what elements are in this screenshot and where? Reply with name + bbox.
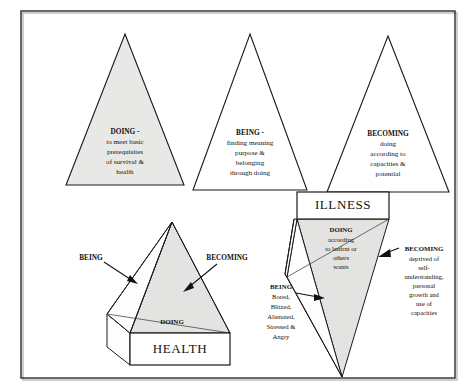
triangle-doing-line-4: health (116, 168, 134, 176)
illness-doing-line-1: according (328, 236, 355, 243)
illness-being-line-5: Angry (273, 333, 291, 340)
triangle-being-line-1: finding meaning (227, 139, 274, 147)
triangle-becoming-shape (327, 36, 449, 192)
triangle-doing: DOING - to meet basic prerequisites of s… (66, 34, 184, 185)
illness-pyramid: ILLNESS DOING according to lanfrnt or ot… (267, 192, 444, 377)
triangle-being-line-4: through doing (230, 169, 270, 177)
triangle-doing-line-2: prerequisites (107, 148, 143, 156)
illness-becoming-line-6: use of (416, 300, 433, 307)
triangle-being-heading: BEING - (236, 128, 264, 137)
illness-becoming-line-3: understanding, (404, 273, 443, 280)
health-pyramid: HEALTH DOING BEING BECOMING (79, 222, 248, 365)
illness-being-line-4: Stressed & (267, 323, 297, 330)
health-doing-label: DOING (160, 318, 184, 326)
illness-becoming-line-2: self- (418, 264, 430, 271)
triangle-becoming-line-1: doing (380, 140, 397, 148)
illness-becoming-line-7: capacities (411, 309, 437, 316)
triangle-becoming-heading: BECOMING (367, 129, 409, 138)
illness-being-heading: BEING (270, 283, 293, 290)
illness-being-line-1: Bored, (272, 293, 290, 300)
illness-becoming-line-5: growth and (409, 291, 440, 298)
illness-doing-line-4: wants (333, 263, 349, 270)
triangle-being: BEING - finding meaning purpose & belong… (193, 34, 307, 190)
triangle-being-line-2: purpose & (235, 149, 265, 157)
triangle-becoming-line-2: according to (370, 150, 406, 158)
triangle-becoming-line-3: capacities & (370, 160, 406, 168)
illness-becoming-heading: BECOMING (405, 245, 444, 252)
illness-doing-heading: DOING (329, 226, 353, 233)
illness-doing-line-2: to lanfrnt or (325, 245, 357, 252)
illness-base-label: ILLNESS (315, 197, 371, 212)
health-becoming-label: BECOMING (206, 253, 248, 262)
triangle-doing-heading: DOING - (111, 127, 141, 136)
triangle-doing-line-1: to meet basic (106, 138, 143, 146)
illness-being-line-2: Blitzed, (271, 303, 292, 310)
figure-canvas: DOING - to meet basic prerequisites of s… (0, 0, 475, 387)
triangle-doing-line-3: of survival & (106, 158, 144, 166)
triangle-becoming: BECOMING doing according to capacities &… (327, 36, 449, 192)
health-base-label: HEALTH (153, 341, 207, 356)
illness-doing-line-3: others (333, 254, 350, 261)
health-being-label: BEING (79, 253, 103, 262)
illness-becoming-line-4: personal (413, 282, 436, 289)
triangle-becoming-line-4: potential (376, 170, 401, 178)
illness-being-line-3: Alienated, (267, 313, 295, 320)
illness-becoming-line-1: deprived of (409, 255, 440, 262)
triangle-being-line-3: belonging (236, 159, 265, 167)
diagram-svg: DOING - to meet basic prerequisites of s… (0, 0, 475, 387)
